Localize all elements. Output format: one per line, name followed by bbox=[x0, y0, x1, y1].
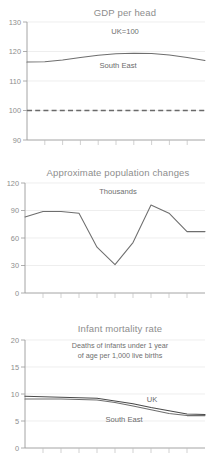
population-changes-chart: Approximate population changes Thousands… bbox=[0, 155, 211, 310]
ytick-imr-10: 10 bbox=[11, 390, 19, 399]
chart-title-gdp: GDP per head bbox=[94, 7, 156, 18]
chart-subtitle-gdp: UK=100 bbox=[111, 27, 139, 36]
infant-mortality-chart: Infant mortality rate Deaths of infants … bbox=[0, 310, 211, 466]
chart-title-population: Approximate population changes bbox=[47, 167, 190, 178]
ytick-imr-5: 5 bbox=[15, 417, 19, 426]
charts-page: GDP per head UK=100 bbox=[0, 0, 211, 466]
ytick-imr-20: 20 bbox=[11, 336, 19, 345]
chart-title-mortality: Infant mortality rate bbox=[78, 323, 162, 334]
y-ticks-mortality bbox=[21, 340, 25, 448]
ytick-gdp-90: 90 bbox=[13, 136, 21, 145]
ytick-gdp-130: 130 bbox=[9, 18, 21, 27]
chart-subtitle-population: Thousands bbox=[99, 187, 137, 196]
chart-subtitle-mortality-line2: of age per 1,000 live births bbox=[78, 351, 163, 360]
y-ticks-gdp bbox=[23, 22, 27, 140]
x-ticks-gdp bbox=[45, 140, 187, 145]
x-ticks-population bbox=[43, 293, 187, 298]
ytick-pop-0: 0 bbox=[15, 289, 19, 298]
ytick-gdp-100: 100 bbox=[9, 106, 21, 115]
series-line-population bbox=[25, 205, 205, 265]
gdp-per-head-chart: GDP per head UK=100 bbox=[0, 0, 211, 155]
series-label-south-east-gdp: South East bbox=[99, 61, 137, 70]
ytick-gdp-110: 110 bbox=[9, 77, 21, 86]
chart-panel-population-changes: Approximate population changes Thousands… bbox=[0, 155, 211, 310]
y-ticks-population bbox=[21, 183, 25, 293]
series-label-south-east-mortality: South East bbox=[105, 415, 143, 424]
ytick-imr-15: 15 bbox=[11, 363, 19, 372]
chart-panel-gdp-per-head: GDP per head UK=100 bbox=[0, 0, 211, 155]
series-label-uk-mortality: UK bbox=[147, 395, 158, 404]
ytick-imr-0: 0 bbox=[15, 444, 19, 453]
chart-panel-infant-mortality: Infant mortality rate Deaths of infants … bbox=[0, 310, 211, 466]
ytick-pop-60: 60 bbox=[11, 234, 19, 243]
ytick-pop-30: 30 bbox=[11, 261, 19, 270]
ytick-pop-90: 90 bbox=[11, 206, 19, 215]
chart-subtitle-mortality-line1: Deaths of infants under 1 year bbox=[72, 341, 169, 350]
ytick-gdp-120: 120 bbox=[9, 47, 21, 56]
ytick-pop-120: 120 bbox=[7, 179, 19, 188]
x-ticks-mortality bbox=[43, 448, 187, 453]
